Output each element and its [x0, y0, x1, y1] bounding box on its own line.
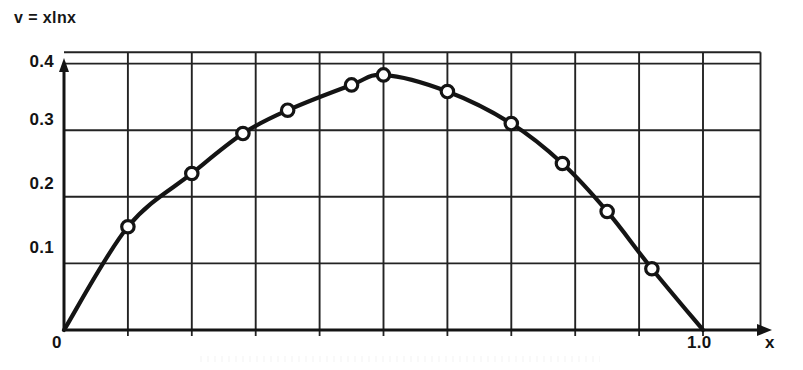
x-axis [64, 324, 772, 336]
data-point-markers [122, 69, 658, 275]
plot-area [0, 0, 803, 370]
x-tick-label-1-0: 1.0 [687, 333, 712, 353]
x-axis-label: x [765, 333, 774, 353]
data-point-marker [441, 85, 453, 97]
origin-label: 0 [52, 333, 62, 353]
y-tick-label-0-2: 0.2 [8, 174, 54, 194]
data-point-marker [556, 157, 568, 169]
data-point-marker [646, 263, 658, 275]
data-point-marker [186, 167, 198, 179]
data-point-marker [237, 127, 249, 139]
y-axis [59, 58, 69, 330]
data-point-marker [281, 104, 293, 116]
data-point-marker [345, 79, 357, 91]
data-point-marker [122, 221, 134, 233]
data-point-marker [505, 117, 517, 129]
data-point-marker [377, 69, 389, 81]
horizontal-gridlines [64, 52, 761, 263]
y-tick-label-0-3: 0.3 [8, 110, 54, 130]
y-tick-label-0-1: 0.1 [8, 238, 54, 258]
data-point-marker [601, 205, 613, 217]
figure-canvas: v = xlnx 0.4 0.3 0.2 0.1 0 1.0 x [0, 0, 803, 370]
y-tick-label-0-4: 0.4 [8, 52, 54, 72]
